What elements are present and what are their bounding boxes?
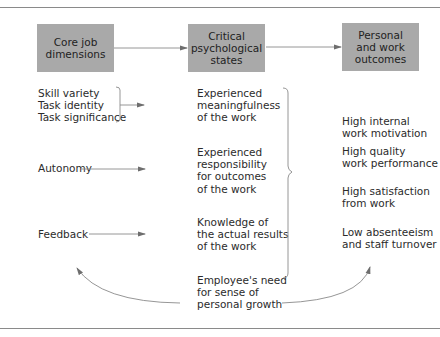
states-brace: [283, 88, 292, 278]
curve-arrow-right: [282, 267, 370, 303]
curve-arrow-left: [77, 268, 180, 303]
group-bracket: [116, 87, 120, 122]
job-characteristics-diagram: Core job dimensions Critical psychologic…: [0, 0, 440, 337]
connector-lines: [0, 0, 440, 337]
